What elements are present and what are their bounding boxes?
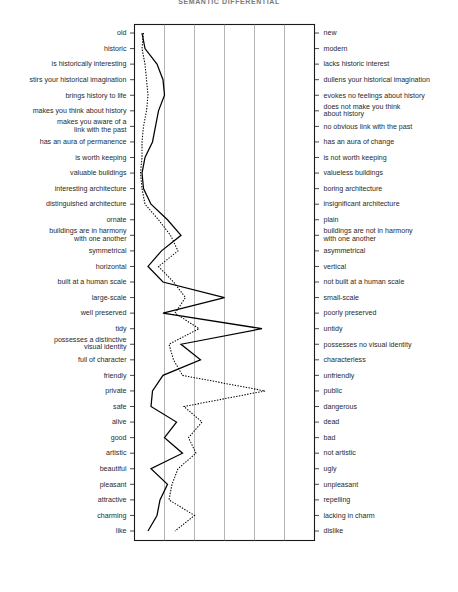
scale-label-right: new [324,29,338,37]
scale-label-right: lacks historic interest [324,60,390,68]
scale-label-right: poorly preserved [324,309,377,317]
scale-label-right: evokes no feelings about history [324,92,426,100]
scale-label-right: not artistic [324,449,357,457]
scale-label-left: makes you think about history [33,107,127,115]
scale-label-left: well preserved [80,309,127,317]
scale-label-right: repelling [324,496,351,504]
scale-label-right: unpleasant [324,481,359,489]
scale-label-right: unfriendly [324,372,355,380]
scale-label-left: private [105,387,126,395]
scale-label-left: historic [104,45,127,53]
scale-label-right: dislike [324,527,344,535]
scale-label-left: full of character [78,356,127,364]
scale-label-right: insignificant architecture [324,200,400,208]
scale-label-left: has an aura of permanence [40,138,127,146]
scale-label-right: possesses no visual identity [324,341,412,349]
scale-label-right: small-scale [324,294,360,302]
scale-label-right: has an aura of change [324,138,395,146]
scale-label-right: characterless [324,356,367,364]
scale-label-right: plain [324,216,339,224]
scale-label-right: lacking in charm [324,512,375,520]
scale-label-right: dullens your historical imagination [324,76,431,84]
scale-label-right: valueless buildings [324,169,384,177]
scale-label-left: charming [97,512,126,520]
scale-label-left: ornate [106,216,126,224]
scale-label-right: public [324,387,343,395]
scale-label-left: good [111,434,127,442]
scale-label-left: alive [112,418,127,426]
scale-label-left: pleasant [100,481,127,489]
scale-label-left: distinguished architecture [46,200,126,208]
scale-label-right: ugly [324,465,337,473]
semantic-differential-chart: SEMANTIC DIFFERENTIAL oldnewhistoricmode… [0,0,458,592]
scale-label-left: is worth keeping [75,154,126,162]
scale-label-left: safe [113,403,126,411]
scale-label-left: horizontal [96,263,127,271]
scale-label-left: possesses a distinctivevisual identity [54,336,127,351]
scale-label-right: boring architecture [324,185,383,193]
scale-label-left: makes you aware of alink with the past [57,118,126,133]
scale-label-right: not built at a human scale [324,278,405,286]
scale-label-left: attractive [98,496,127,504]
scale-label-right: bad [324,434,336,442]
scale-label-right: vertical [324,263,347,271]
scale-label-right: dead [324,418,340,426]
scale-label-right: asymmetrical [324,247,366,255]
scale-label-right: is not worth keeping [324,154,387,162]
scale-label-right: dangerous [324,403,358,411]
scale-label-left: artistic [106,449,127,457]
scale-label-left: tidy [115,325,126,333]
scale-label-left: buildings are in harmonywith one another [49,227,127,242]
chart-canvas: oldnewhistoricmodernis historically inte… [0,0,458,592]
series-line [142,33,262,531]
scale-label-right: untidy [324,325,343,333]
scale-label-left: friendly [104,372,127,380]
scale-label-left: built at a human scale [57,278,126,286]
scale-label-left: old [117,29,127,37]
scale-label-left: valuable buildings [70,169,127,177]
scale-label-left: large-scale [92,294,127,302]
scale-label-right: buildings are not in harmonywith one ano… [323,227,414,242]
scale-label-left: beautiful [100,465,127,473]
scale-label-left: like [116,527,127,535]
scale-label-right: no obvious link with the past [324,123,413,131]
scale-label-left: interesting architecture [55,185,127,193]
scale-label-right: modern [324,45,348,53]
scale-label-left: symmetrical [89,247,127,255]
scale-label-left: brings history to life [65,92,126,100]
scale-label-left: stirs your historical imagination [30,76,127,84]
scale-label-left: is historically interesting [52,60,127,68]
scale-label-right: does not make you thinkabout history [324,103,401,118]
